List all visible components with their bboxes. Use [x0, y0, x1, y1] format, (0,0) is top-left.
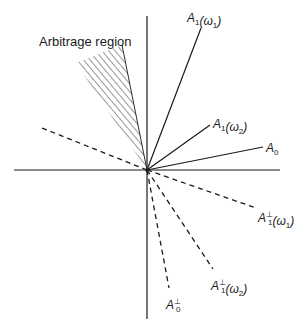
vector-label-a1-w2: A1(ω2) — [212, 117, 247, 136]
vector-group — [42, 28, 263, 288]
vector-label-a1-w1: A1(ω1) — [186, 11, 221, 30]
arbitrage-region-hatch — [76, 45, 147, 170]
diagram-svg: Arbitrage region A1(ω1)A1(ω2)A0A⊥1(ω1)A⊥… — [0, 0, 306, 333]
vector-a1perp-w1 — [147, 170, 256, 208]
vector-a1perp-w2 — [147, 170, 213, 269]
arbitrage-region-label: Arbitrage region — [39, 34, 132, 49]
vector-label-a1perp-w1: A⊥1(ω1) — [257, 210, 294, 230]
vector-label-a0: A0 — [265, 141, 279, 157]
arbitrage-diagram: Arbitrage region A1(ω1)A1(ω2)A0A⊥1(ω1)A⊥… — [0, 0, 306, 333]
vector-a1-w1 — [147, 28, 201, 170]
vector-label-a0perp: A⊥0 — [165, 297, 181, 314]
vector-label-a1perp-w2: A⊥1(ω2) — [210, 278, 247, 298]
vector-a0perp — [147, 170, 169, 288]
vector-a0 — [147, 147, 263, 170]
origin-point — [145, 168, 149, 172]
